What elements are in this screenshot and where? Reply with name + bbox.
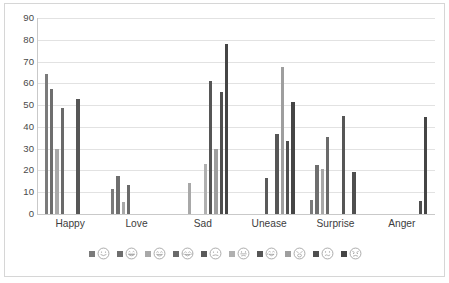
legend-swatch-face-3-laughing — [145, 251, 151, 257]
bar-surprise-face-3-laughing — [321, 169, 324, 214]
smiling-face-icon — [97, 247, 110, 260]
confused-face-icon — [321, 247, 334, 260]
bar-love-face-1-smiling — [111, 189, 114, 214]
chart-plot-wrapper: 0102030405060708090 HappyLoveSadUneaseSu… — [5, 4, 446, 278]
sad-crying-face-icon — [265, 247, 278, 260]
bar-happy-face-1-smiling — [45, 74, 48, 214]
bar-sad-face-10-angry — [225, 44, 228, 214]
frowning-face-icon — [237, 247, 250, 260]
x-axis-label-happy: Happy — [55, 218, 84, 229]
y-tick-label-80: 80 — [8, 35, 34, 45]
y-tick-label-30: 30 — [8, 144, 34, 154]
bar-sad-face-9-confused — [220, 92, 223, 214]
bar-unease-face-10-angry — [291, 102, 294, 214]
y-axis-tick-labels: 0102030405060708090 — [5, 18, 34, 214]
y-tick-label-50: 50 — [8, 100, 34, 110]
legend-swatch-face-1-smiling — [89, 251, 95, 257]
x-axis-label-unease: Unease — [252, 218, 287, 229]
bar-surprise-face-1-smiling — [310, 200, 313, 214]
bar-surprise-face-4-tears-of-joy — [326, 137, 329, 214]
y-tick-label-60: 60 — [8, 79, 34, 89]
y-tick-label-0: 0 — [8, 209, 34, 219]
x-axis-label-surprise: Surprise — [317, 218, 355, 229]
neutral-face-icon — [209, 247, 222, 260]
y-tick-label-90: 90 — [8, 13, 34, 23]
bar-unease-face-8-weary — [281, 67, 284, 214]
x-axis-label-love: Love — [125, 218, 147, 229]
legend-swatch-face-2-grinning — [117, 251, 123, 257]
bar-love-face-3-laughing — [122, 202, 125, 214]
grinning-face-icon — [125, 247, 138, 260]
legend-item-face-10-angry[interactable] — [341, 247, 362, 260]
bar-sad-face-8-weary — [214, 149, 217, 214]
tears-of-joy-face-icon — [181, 247, 194, 260]
legend-swatch-face-6-frowning — [229, 251, 235, 257]
legend-swatch-face-10-angry — [341, 251, 347, 257]
bar-happy-face-3-laughing — [55, 149, 58, 214]
legend-item-face-3-laughing[interactable] — [145, 247, 166, 260]
legend-swatch-face-7-sad-crying — [257, 251, 263, 257]
laughing-face-icon — [153, 247, 166, 260]
bar-sad-face-7-sad-crying — [209, 81, 212, 214]
legend-item-face-5-neutral[interactable] — [201, 247, 222, 260]
legend-item-face-1-smiling[interactable] — [89, 247, 110, 260]
legend-item-face-6-frowning[interactable] — [229, 247, 250, 260]
chart-frame: 0102030405060708090 HappyLoveSadUneaseSu… — [4, 3, 445, 277]
bar-anger-face-10-angry — [424, 117, 427, 214]
legend-swatch-face-8-weary — [285, 251, 291, 257]
x-axis-category-labels: HappyLoveSadUneaseSurpriseAnger — [37, 218, 435, 236]
legend-item-face-7-sad-crying[interactable] — [257, 247, 278, 260]
bar-sad-face-3-laughing — [188, 183, 191, 214]
bar-unease-face-9-confused — [286, 141, 289, 214]
bar-happy-face-7-sad-crying — [76, 99, 79, 214]
y-tick-label-10: 10 — [8, 187, 34, 197]
y-tick-label-20: 20 — [8, 166, 34, 176]
legend-swatch-face-9-confused — [313, 251, 319, 257]
angry-face-icon — [349, 247, 362, 260]
chart-legend — [5, 247, 446, 260]
legend-item-face-8-weary[interactable] — [285, 247, 306, 260]
bar-sad-face-6-frowning — [204, 164, 207, 214]
bar-happy-face-4-tears-of-joy — [61, 108, 64, 214]
x-axis-label-anger: Anger — [388, 218, 415, 229]
x-axis-label-sad: Sad — [194, 218, 212, 229]
bar-love-face-2-grinning — [116, 176, 119, 214]
y-tick-label-40: 40 — [8, 122, 34, 132]
bar-unease-face-5-neutral — [265, 178, 268, 214]
bar-happy-face-2-grinning — [50, 89, 53, 214]
bar-surprise-face-9-confused — [352, 172, 355, 214]
y-tick-label-70: 70 — [8, 57, 34, 67]
bar-anger-face-9-confused — [419, 201, 422, 214]
bar-unease-face-7-sad-crying — [275, 134, 278, 214]
gridline-0 — [37, 214, 435, 215]
bar-series-layer — [37, 18, 435, 214]
bar-surprise-face-7-sad-crying — [342, 116, 345, 214]
legend-item-face-4-tears-of-joy[interactable] — [173, 247, 194, 260]
legend-item-face-9-confused[interactable] — [313, 247, 334, 260]
bar-surprise-face-2-grinning — [315, 165, 318, 214]
legend-swatch-face-5-neutral — [201, 251, 207, 257]
legend-swatch-face-4-tears-of-joy — [173, 251, 179, 257]
bar-love-face-4-tears-of-joy — [127, 185, 130, 214]
weary-face-icon — [293, 247, 306, 260]
legend-item-face-2-grinning[interactable] — [117, 247, 138, 260]
